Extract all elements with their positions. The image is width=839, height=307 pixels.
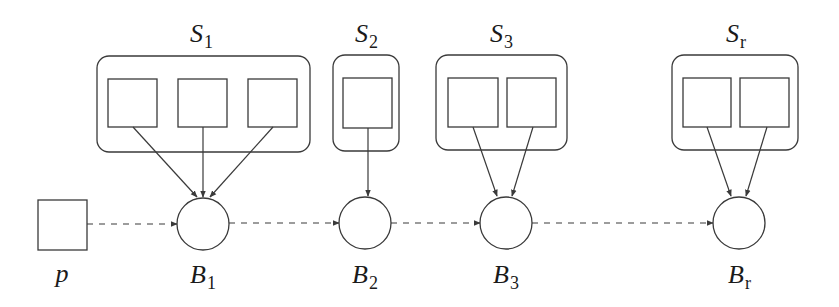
element-box-1	[448, 78, 498, 127]
block-node-b3	[480, 197, 532, 249]
group-s1: S1B1	[97, 19, 310, 293]
groups-layer: S1B1S2B2S3B3SrBr	[97, 19, 798, 293]
block-label-b1: B1	[190, 260, 216, 293]
element-box-3	[248, 79, 297, 127]
group-s2: S2B2	[333, 19, 399, 293]
group-sr: SrBr	[672, 19, 798, 293]
group-label-s1: S1	[190, 19, 213, 52]
arrow-to-block	[707, 127, 731, 196]
source-box-p	[38, 200, 87, 250]
block-label-b3: B3	[493, 260, 519, 293]
diagram-canvas: S1B1S2B2S3B3SrBr p	[0, 0, 839, 307]
group-s3: S3B3	[436, 19, 567, 293]
block-node-b2	[339, 197, 391, 249]
element-box-1	[343, 78, 392, 128]
element-box-2	[178, 79, 227, 127]
arrow-to-block	[210, 127, 273, 197]
group-label-s2: S2	[355, 19, 378, 52]
element-box-2	[507, 78, 556, 127]
arrow-to-block	[746, 127, 767, 196]
block-node-b1	[177, 198, 229, 250]
block-node-br	[713, 197, 765, 249]
arrow-to-block	[473, 127, 497, 196]
source-layer: p	[38, 200, 87, 288]
element-box-2	[740, 78, 789, 127]
block-label-b2: B2	[352, 260, 378, 293]
group-label-s3: S3	[490, 19, 513, 52]
block-label-br: Br	[728, 260, 751, 293]
group-label-sr: Sr	[726, 19, 746, 52]
element-box-1	[683, 78, 731, 127]
source-label-p: p	[54, 259, 69, 288]
arrow-to-block	[512, 127, 533, 196]
arrow-to-block	[133, 127, 197, 197]
element-box-1	[108, 79, 157, 127]
